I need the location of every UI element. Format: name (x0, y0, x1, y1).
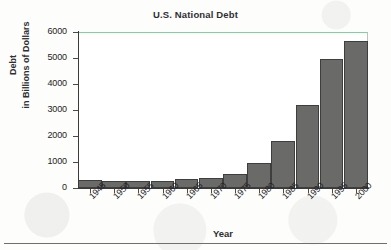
y-axis-tick (73, 188, 78, 189)
y-axis-tick (73, 58, 78, 59)
bar-1990 (296, 105, 320, 188)
bar-1995 (320, 59, 344, 188)
y-axis-title: Debt in Billions of Dollars (7, 0, 33, 140)
y-axis-title-line-1: Debt (7, 0, 20, 140)
y-axis-tick-label: 1000 (47, 156, 67, 166)
y-axis-tick (73, 162, 78, 163)
x-axis-title: Year (78, 228, 368, 239)
y-axis-line (78, 31, 79, 189)
y-axis-tick (73, 110, 78, 111)
y-axis-tick-label: 0 (62, 182, 67, 192)
chart-title: U.S. National Debt (0, 9, 391, 20)
y-axis-tick-label: 4000 (47, 78, 67, 88)
y-axis-tick (73, 136, 78, 137)
y-axis-tick-label: 6000 (47, 26, 67, 36)
y-axis-tick (73, 32, 78, 33)
y-axis-tick-label: 2000 (47, 130, 67, 140)
plot-area (78, 32, 368, 188)
scanned-page: U.S. National Debt Debt in Billions of D… (0, 0, 391, 250)
y-axis-tick-label: 5000 (47, 52, 67, 62)
y-axis-title-line-2: in Billions of Dollars (20, 0, 33, 140)
y-axis-tick-label: 3000 (47, 104, 67, 114)
page-divider-rule (4, 243, 387, 244)
bar-2000 (344, 41, 368, 188)
y-axis-tick (73, 84, 78, 85)
